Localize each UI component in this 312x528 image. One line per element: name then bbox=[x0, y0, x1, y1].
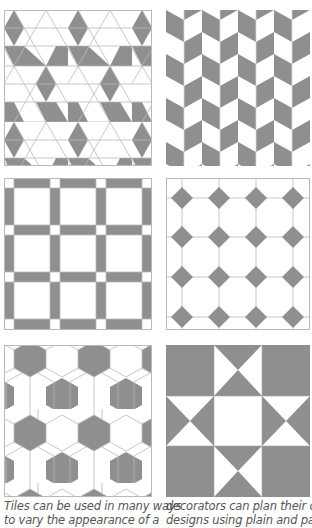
tile-pattern-star-quilt bbox=[166, 345, 310, 497]
star-quilt-illustration bbox=[166, 345, 310, 497]
tile-pattern-square-lattice bbox=[4, 178, 152, 330]
tile-pattern-herringbone-chevron bbox=[166, 10, 310, 166]
caption-right-line-2: designs using plain and patterned bbox=[166, 513, 312, 527]
woven-hexagon-illustration bbox=[4, 345, 152, 497]
square-lattice-illustration bbox=[4, 178, 152, 330]
caption-left-line-2: to vary the appearance of a bbox=[4, 513, 181, 527]
caption-left-line-1: Tiles can be used in many ways bbox=[4, 499, 181, 513]
tile-pattern-octagon-diamond bbox=[166, 178, 310, 330]
tumbling-blocks-illustration bbox=[4, 10, 152, 166]
chevron-illustration bbox=[166, 10, 310, 166]
octagon-diamond-illustration bbox=[166, 178, 310, 330]
caption-right-line-1: decorators can plan their own bbox=[166, 499, 312, 513]
tile-pattern-tumbling-blocks bbox=[4, 10, 152, 166]
caption-right: decorators can plan their own designs us… bbox=[166, 499, 312, 527]
tile-pattern-woven-hexagon bbox=[4, 345, 152, 497]
caption-left: Tiles can be used in many ways to vary t… bbox=[4, 499, 181, 527]
